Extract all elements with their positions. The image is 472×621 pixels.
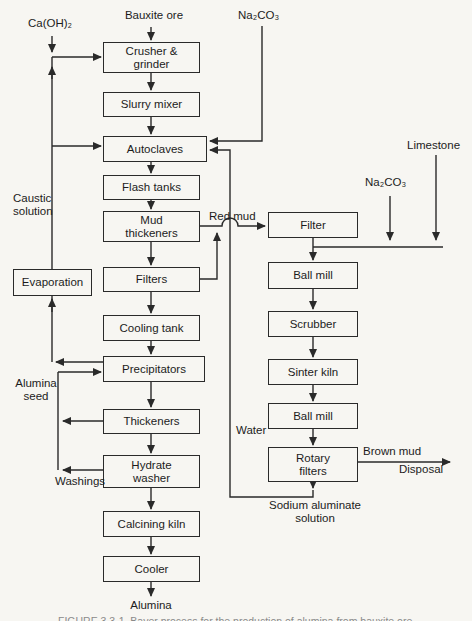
stream-label-washings: Washings xyxy=(55,475,105,488)
process-box-rotary-filters: Rotary filters xyxy=(268,447,358,482)
process-box-mud-thickeners: Mud thickeners xyxy=(103,211,200,242)
process-box-crusher-grinder: Crusher & grinder xyxy=(103,42,200,73)
flow-diagram: Crusher & grinder Slurry mixer Autoclave… xyxy=(0,0,472,621)
stream-label-brown-mud: Brown mud xyxy=(363,445,421,458)
process-box-filters: Filters xyxy=(103,267,200,292)
cropped-figure-caption: FIGURE 3.3-1. Bayer process for the prod… xyxy=(58,615,458,621)
stream-label-limestone: Limestone xyxy=(407,139,460,152)
process-box-cooling-tank: Cooling tank xyxy=(103,315,200,341)
process-box-thickeners: Thickeners xyxy=(103,409,200,434)
process-box-slurry-mixer: Slurry mixer xyxy=(103,92,200,117)
process-box-hydrate-washer: Hydrate washer xyxy=(103,455,200,488)
process-box-scrubber: Scrubber xyxy=(268,311,358,337)
stream-label-caustic-solution: Caustic solution xyxy=(13,192,53,218)
process-box-precipitators: Precipitators xyxy=(103,356,205,382)
process-box-sinter-kiln: Sinter kiln xyxy=(268,359,358,385)
stream-label-na2co3-top: Na₂CO₃ xyxy=(238,9,279,22)
stream-label-disposal: Disposal xyxy=(399,463,443,476)
process-box-filter: Filter xyxy=(268,212,358,238)
stream-label-alumina-product: Alumina xyxy=(115,599,187,612)
process-box-ball-mill-1: Ball mill xyxy=(268,262,358,289)
process-box-ball-mill-2: Ball mill xyxy=(268,403,358,429)
stream-label-ca-oh2: Ca(OH)₂ xyxy=(28,17,72,30)
stream-label-water: Water xyxy=(236,424,266,437)
stream-label-red-mud: Red mud xyxy=(209,210,256,223)
process-box-autoclaves: Autoclaves xyxy=(103,136,207,162)
process-box-calcining-kiln: Calcining kiln xyxy=(103,511,200,537)
diagram-connectors xyxy=(0,0,472,621)
stream-label-alumina-seed: Alumina seed xyxy=(12,377,60,403)
process-box-evaporation: Evaporation xyxy=(13,269,92,296)
stream-label-sodium-aluminate-solution: Sodium aluminate solution xyxy=(248,499,382,525)
stream-label-bauxite-ore: Bauxite ore xyxy=(118,9,190,22)
process-box-flash-tanks: Flash tanks xyxy=(103,175,200,200)
stream-label-na2co3-right: Na₂CO₃ xyxy=(365,176,406,189)
process-box-cooler: Cooler xyxy=(103,556,200,582)
